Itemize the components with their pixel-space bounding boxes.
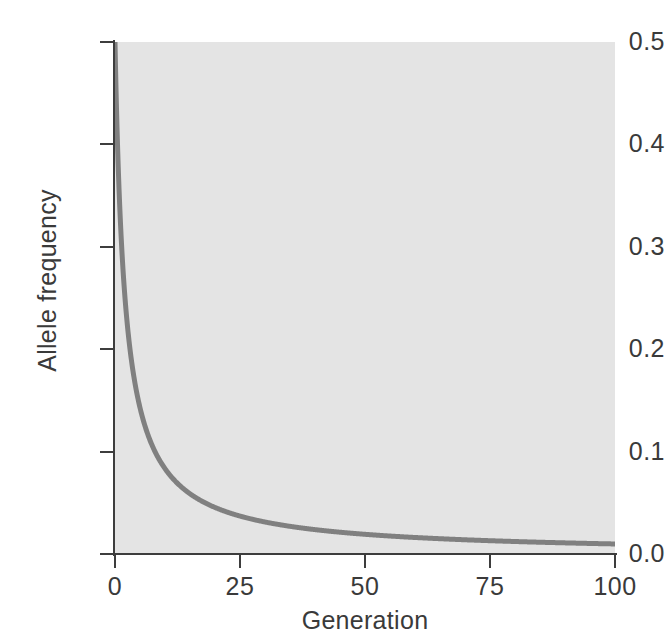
y-tick-label: 0.1 [569, 439, 665, 464]
y-tick-label: 0.5 [569, 29, 665, 54]
x-tick-label: 75 [476, 574, 505, 599]
allele-frequency-curve [115, 42, 615, 544]
plot-svg [115, 42, 615, 554]
y-tick-mark [100, 143, 114, 145]
x-tick-mark [364, 554, 366, 568]
plot-area [115, 42, 615, 554]
y-tick-label: 0.3 [569, 234, 665, 259]
x-tick-label: 100 [593, 574, 636, 599]
x-tick-mark [239, 554, 241, 568]
y-tick-mark [100, 553, 114, 555]
x-tick-mark [614, 554, 616, 568]
y-tick-mark [100, 451, 114, 453]
y-tick-label: 0.0 [569, 541, 665, 566]
y-tick-mark [100, 41, 114, 43]
chart-figure: 0.00.10.20.30.40.5 0255075100 Allele fre… [0, 0, 665, 643]
x-tick-mark [489, 554, 491, 568]
y-tick-label: 0.4 [569, 131, 665, 156]
y-axis-line [113, 40, 115, 556]
y-tick-mark [100, 246, 114, 248]
x-tick-label: 25 [226, 574, 255, 599]
x-tick-label: 0 [108, 574, 122, 599]
y-axis-title: Allele frequency [35, 166, 60, 396]
x-tick-label: 50 [351, 574, 380, 599]
y-tick-mark [100, 348, 114, 350]
x-axis-title: Generation [115, 608, 615, 633]
y-tick-label: 0.2 [569, 336, 665, 361]
x-tick-mark [114, 554, 116, 568]
